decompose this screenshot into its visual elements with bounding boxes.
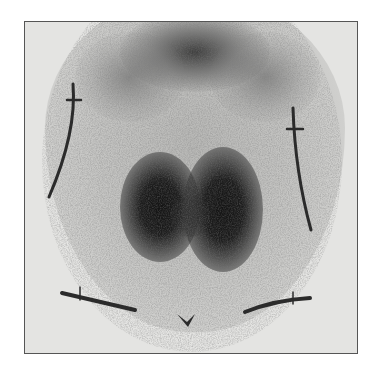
scintigraphy-image bbox=[24, 21, 358, 354]
markers-layer bbox=[25, 22, 358, 354]
speckle-noise bbox=[25, 22, 358, 354]
